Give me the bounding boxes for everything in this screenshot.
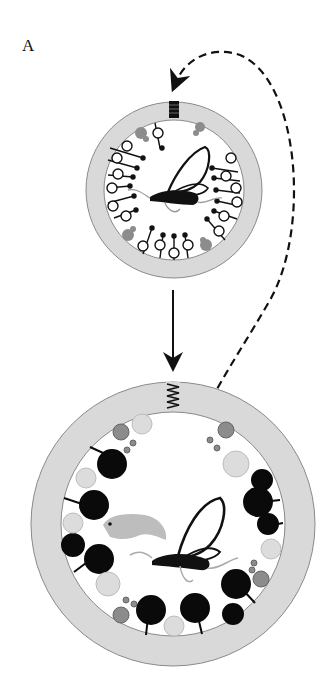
diagram-canvas: [0, 0, 332, 697]
closed-receptor-icon: [169, 101, 179, 118]
top-cell: [86, 101, 262, 278]
bottom-cell: [31, 382, 315, 666]
open-receptor-icon: [166, 382, 180, 409]
